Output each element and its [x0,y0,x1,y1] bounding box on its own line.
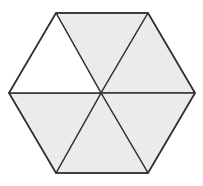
triangle-group [9,13,195,173]
hexagon-diagram [0,0,203,186]
